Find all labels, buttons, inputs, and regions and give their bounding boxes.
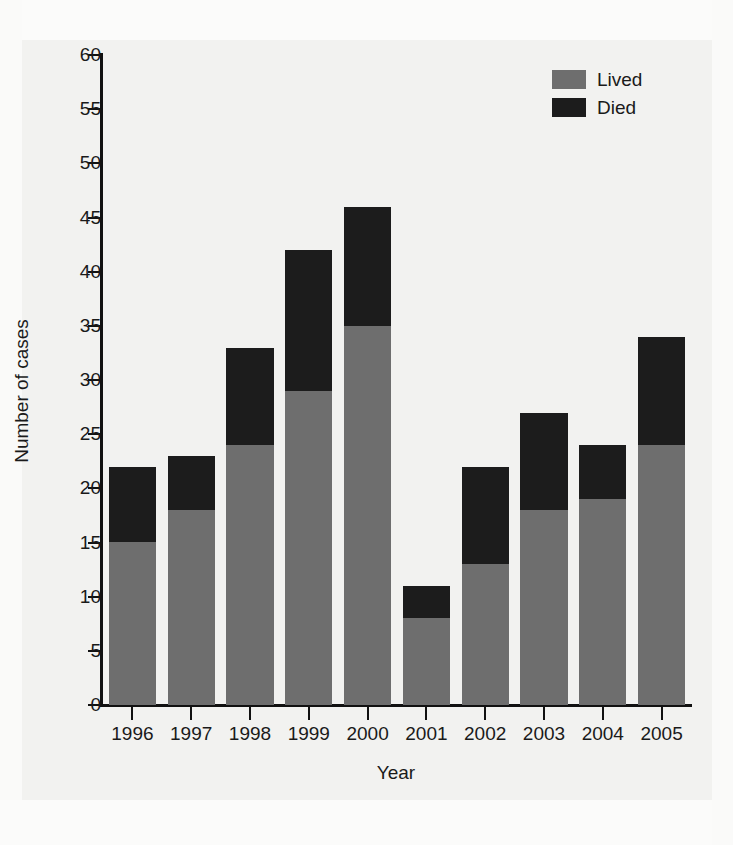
bar-segment-died	[168, 456, 215, 510]
y-tick-label: 55	[65, 99, 101, 118]
legend-swatch-died	[552, 98, 586, 117]
bar-segment-lived	[344, 326, 391, 705]
x-tick-label-2005: 2005	[632, 724, 691, 743]
y-tick-label: 35	[65, 316, 101, 335]
x-tick-label-1996: 1996	[103, 724, 162, 743]
y-axis-label: Number of cases	[11, 291, 33, 491]
x-axis-label: Year	[100, 762, 692, 784]
bar-2002	[462, 467, 509, 705]
x-tick-mark	[190, 707, 192, 720]
x-tick-label-1999: 1999	[279, 724, 338, 743]
chart-legend: LivedDied	[552, 70, 642, 126]
y-tick-label: 15	[65, 533, 101, 552]
bar-segment-died	[109, 467, 156, 543]
x-tick-mark	[308, 707, 310, 720]
bar-1998	[226, 348, 273, 706]
y-tick-label: 25	[65, 424, 101, 443]
x-tick-label-2000: 2000	[338, 724, 397, 743]
x-tick-mark	[602, 707, 604, 720]
y-tick-label: 5	[65, 641, 101, 660]
x-tick-mark	[543, 707, 545, 720]
x-tick-mark	[131, 707, 133, 720]
bar-segment-died	[285, 250, 332, 391]
x-tick-mark	[367, 707, 369, 720]
x-tick-label-1998: 1998	[221, 724, 280, 743]
bar-2000	[344, 207, 391, 705]
y-tick-label: 0	[65, 695, 101, 714]
x-tick-mark	[484, 707, 486, 720]
legend-item-died: Died	[552, 98, 642, 117]
bar-segment-died	[403, 586, 450, 619]
x-tick-mark	[661, 707, 663, 720]
x-tick-mark	[249, 707, 251, 720]
bar-segment-lived	[109, 542, 156, 705]
bar-segment-lived	[462, 564, 509, 705]
chart-page: 051015202530354045505560 199619971998199…	[0, 0, 733, 845]
x-tick-label-1997: 1997	[162, 724, 221, 743]
bar-2003	[520, 413, 567, 706]
bar-segment-lived	[226, 445, 273, 705]
bar-segment-lived	[520, 510, 567, 705]
y-tick-label: 20	[65, 478, 101, 497]
bar-1996	[109, 467, 156, 705]
y-tick-label: 30	[65, 370, 101, 389]
bar-segment-lived	[403, 618, 450, 705]
x-tick-label-2002: 2002	[456, 724, 515, 743]
bar-1999	[285, 250, 332, 705]
bar-segment-lived	[579, 499, 626, 705]
y-tick-label: 40	[65, 262, 101, 281]
legend-swatch-lived	[552, 70, 586, 89]
y-tick-label: 50	[65, 153, 101, 172]
bar-2004	[579, 445, 626, 705]
bar-2005	[638, 337, 685, 705]
bar-segment-lived	[638, 445, 685, 705]
bar-segment-died	[344, 207, 391, 326]
stacked-bar-chart: 051015202530354045505560 199619971998199…	[0, 0, 733, 845]
x-tick-label-2004: 2004	[573, 724, 632, 743]
bar-segment-died	[462, 467, 509, 565]
legend-item-lived: Lived	[552, 70, 642, 89]
y-tick-label: 45	[65, 208, 101, 227]
y-tick-label: 10	[65, 587, 101, 606]
bar-1997	[168, 456, 215, 705]
x-tick-mark	[425, 707, 427, 720]
x-tick-label-2003: 2003	[515, 724, 574, 743]
bar-segment-died	[638, 337, 685, 445]
bar-segment-lived	[285, 391, 332, 705]
x-tick-label-2001: 2001	[397, 724, 456, 743]
bar-segment-died	[520, 413, 567, 511]
bar-segment-died	[579, 445, 626, 499]
bar-segment-lived	[168, 510, 215, 705]
bar-2001	[403, 586, 450, 705]
y-tick-label: 60	[65, 45, 101, 64]
legend-label-died: Died	[597, 98, 636, 117]
legend-label-lived: Lived	[597, 70, 642, 89]
bar-segment-died	[226, 348, 273, 446]
